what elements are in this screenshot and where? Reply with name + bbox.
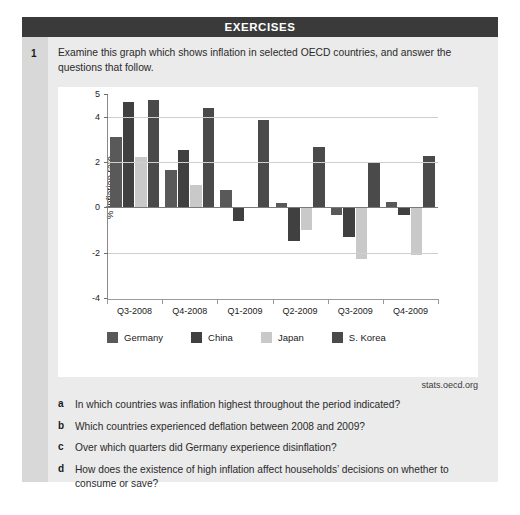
y-tick-label: -2 — [72, 248, 100, 258]
exercises-header: EXERCISES — [22, 17, 498, 37]
bar-japan-q2-2009 — [301, 207, 313, 230]
gridline-neg2 — [107, 253, 438, 254]
x-axis-label: Q1-2009 — [227, 306, 262, 316]
legend-swatch — [107, 332, 118, 343]
question-row: aIn which countries was inflation highes… — [58, 398, 478, 413]
legend-item-japan: Japan — [261, 332, 304, 343]
y-tick-mark — [104, 94, 108, 95]
bar-skorea-q3-2009 — [368, 163, 380, 207]
x-tick-mark — [328, 299, 329, 304]
y-tick-mark — [104, 117, 108, 118]
chart-plot-area — [107, 94, 438, 298]
legend-swatch — [191, 332, 202, 343]
legend-label: China — [208, 332, 233, 343]
bar-china-q2-2009 — [288, 207, 300, 241]
exercise-card: EXERCISES 1 Examine this graph which sho… — [22, 17, 498, 482]
chart-bars-layer — [107, 94, 438, 298]
bar-skorea-q4-2008 — [203, 108, 215, 208]
bar-skorea-q4-2009 — [423, 156, 435, 207]
questions-list: aIn which countries was inflation highes… — [58, 398, 478, 499]
gridline-4 — [107, 117, 438, 118]
x-tick-mark — [273, 299, 274, 304]
page-root: EXERCISES 1 Examine this graph which sho… — [0, 0, 520, 515]
question-letter: d — [58, 463, 75, 492]
bar-germany-q1-2009 — [220, 190, 232, 207]
y-tick-label: 2 — [72, 157, 100, 167]
question-text: Which countries experienced deflation be… — [75, 420, 365, 435]
bar-japan-q4-2008 — [190, 185, 202, 208]
y-tick-label: 0 — [72, 202, 100, 212]
y-tick-mark — [104, 253, 108, 254]
legend-label: S. Korea — [349, 332, 386, 343]
x-axis-label: Q3-2008 — [117, 306, 152, 316]
legend-item-skorea: S. Korea — [332, 332, 386, 343]
question-text: Over which quarters did Germany experien… — [75, 441, 337, 456]
x-tick-mark — [383, 299, 384, 304]
legend-label: Japan — [278, 332, 304, 343]
legend-item-china: China — [191, 332, 233, 343]
question-letter: a — [58, 398, 75, 413]
question-text: How does the existence of high inflation… — [75, 463, 478, 492]
y-tick-label: -4 — [72, 293, 100, 303]
x-tick-mark — [438, 299, 439, 304]
legend-swatch — [332, 332, 343, 343]
bar-germany-q3-2008 — [110, 137, 122, 207]
bar-china-q4-2008 — [178, 150, 190, 208]
question-letter: c — [58, 441, 75, 456]
y-tick-label: 5 — [72, 89, 100, 99]
y-tick-mark — [104, 207, 108, 208]
x-axis-label: Q4-2008 — [172, 306, 207, 316]
x-axis-label: Q2-2009 — [283, 306, 318, 316]
question-row: cOver which quarters did Germany experie… — [58, 441, 478, 456]
chart-legend: GermanyChinaJapanS. Korea — [107, 332, 438, 343]
bar-china-q3-2008 — [123, 102, 135, 207]
inflation-bar-chart: % inflation rate 5420-2-4 Q3-2008Q4-2008… — [58, 87, 478, 377]
legend-item-germany: Germany — [107, 332, 163, 343]
exercise-number: 1 — [31, 48, 37, 59]
legend-swatch — [261, 332, 272, 343]
exercises-header-title: EXERCISES — [224, 21, 295, 33]
y-tick-label: 4 — [72, 112, 100, 122]
x-tick-mark — [217, 299, 218, 304]
bar-china-q3-2009 — [343, 207, 355, 236]
x-axis-label: Q3-2009 — [338, 306, 373, 316]
bar-china-q1-2009 — [233, 207, 245, 221]
legend-label: Germany — [124, 332, 163, 343]
question-letter: b — [58, 420, 75, 435]
gridline-0 — [107, 207, 438, 208]
question-row: bWhich countries experienced deflation b… — [58, 420, 478, 435]
gridline-2 — [107, 162, 438, 163]
bar-china-q4-2009 — [398, 207, 410, 215]
chart-source: stats.oecd.org — [421, 380, 478, 390]
bar-skorea-q2-2009 — [313, 147, 325, 207]
bar-skorea-q1-2009 — [258, 120, 270, 207]
y-tick-mark — [104, 162, 108, 163]
x-tick-mark — [107, 299, 108, 304]
exercise-intro-text: Examine this graph which shows inflation… — [58, 45, 478, 75]
bar-japan-q4-2009 — [411, 207, 423, 255]
bar-japan-q3-2008 — [135, 157, 147, 207]
question-number-rail — [22, 37, 48, 482]
question-row: dHow does the existence of high inflatio… — [58, 463, 478, 492]
bar-japan-q3-2009 — [356, 207, 368, 259]
bar-germany-q3-2009 — [331, 207, 343, 215]
bar-germany-q4-2008 — [165, 170, 177, 207]
question-text: In which countries was inflation highest… — [75, 398, 400, 413]
x-axis-label: Q4-2009 — [393, 306, 428, 316]
x-tick-mark — [162, 299, 163, 304]
